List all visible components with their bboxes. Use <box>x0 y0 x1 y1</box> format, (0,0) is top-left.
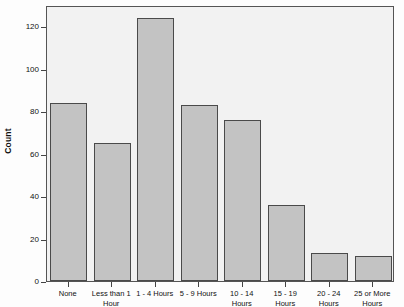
y-tick-label: 120 <box>26 21 39 32</box>
y-axis-tick: 40 <box>0 197 46 198</box>
bar <box>137 18 174 281</box>
bar <box>224 120 261 281</box>
x-tick-mark <box>68 282 69 287</box>
x-tick-label: 25 or MoreHours <box>342 289 402 307</box>
bars-layer <box>47 7 393 281</box>
bar <box>181 105 218 281</box>
y-axis-tick: 100 <box>0 70 46 71</box>
bar <box>94 143 131 281</box>
x-tick-mark <box>242 282 243 287</box>
bar <box>355 256 392 281</box>
x-tick-mark <box>329 282 330 287</box>
y-axis-tick: 0 <box>0 282 46 283</box>
y-tick-label: 100 <box>26 64 39 75</box>
plot-area <box>46 6 394 282</box>
y-tick-label: 20 <box>30 234 39 245</box>
y-axis-title-label: Count <box>3 128 13 154</box>
x-tick-mark <box>155 282 156 287</box>
x-tick-mark <box>198 282 199 287</box>
y-axis-tick: 80 <box>0 112 46 113</box>
bar-chart: Count 020406080100120 NoneLess than 1Hou… <box>0 0 404 307</box>
bar <box>311 253 348 281</box>
x-tick-mark <box>372 282 373 287</box>
bar <box>268 205 305 281</box>
y-tick-label: 0 <box>35 276 39 287</box>
y-tick-label: 40 <box>30 191 39 202</box>
x-tick-mark <box>285 282 286 287</box>
y-tick-label: 80 <box>30 106 39 117</box>
y-axis-tick: 120 <box>0 27 46 28</box>
y-tick-label: 60 <box>30 149 39 160</box>
y-tick-mark <box>41 282 46 283</box>
bar <box>50 103 87 281</box>
y-axis-tick: 20 <box>0 240 46 241</box>
y-axis-tick: 60 <box>0 155 46 156</box>
x-tick-mark <box>111 282 112 287</box>
